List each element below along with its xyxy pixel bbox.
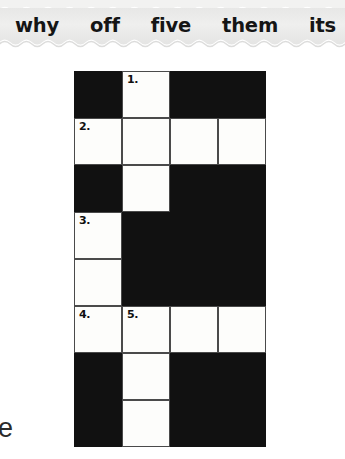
crossword-blocked-cell-3-2 <box>170 212 218 259</box>
word-bank: why off five them its <box>0 0 345 58</box>
crossword-blocked-cell-7-0 <box>74 400 122 447</box>
crossword-blocked-cell-2-3 <box>218 165 266 212</box>
crossword-cell-3-0[interactable]: 3. <box>74 212 122 259</box>
crossword-blocked-cell-7-2 <box>170 400 218 447</box>
crossword-blocked-cell-6-3 <box>218 353 266 400</box>
crossword-blocked-cell-6-2 <box>170 353 218 400</box>
crossword-clue-number: 4. <box>79 309 90 321</box>
word-bank-word-off[interactable]: off <box>90 16 120 36</box>
crossword-cell-6-1[interactable] <box>122 353 170 400</box>
crossword-cell-1-0[interactable]: 2. <box>74 118 122 165</box>
crossword-blocked-cell-0-2 <box>170 71 218 118</box>
crossword-cell-1-2[interactable] <box>170 118 218 165</box>
crossword-grid: 1.2.3.4.5. <box>74 71 266 447</box>
crossword-blocked-cell-3-1 <box>122 212 170 259</box>
crossword-cell-2-1[interactable] <box>122 165 170 212</box>
word-bank-word-five[interactable]: five <box>151 16 191 36</box>
crossword-cell-1-3[interactable] <box>218 118 266 165</box>
crossword-blocked-cell-4-3 <box>218 259 266 306</box>
crossword-blocked-cell-4-1 <box>122 259 170 306</box>
word-bank-word-them[interactable]: them <box>222 16 278 36</box>
crossword-blocked-cell-2-2 <box>170 165 218 212</box>
crossword-cell-1-1[interactable] <box>122 118 170 165</box>
crossword-cell-4-0[interactable] <box>74 259 122 306</box>
crossword-blocked-cell-4-2 <box>170 259 218 306</box>
crossword-cell-5-2[interactable] <box>170 306 218 353</box>
crossword-cell-5-3[interactable] <box>218 306 266 353</box>
clipped-edge-letter: e <box>0 415 13 442</box>
crossword-cell-7-1[interactable] <box>122 400 170 447</box>
crossword-blocked-cell-2-0 <box>74 165 122 212</box>
crossword-clue-number: 2. <box>79 121 90 133</box>
crossword-clue-number: 1. <box>127 74 138 86</box>
crossword-blocked-cell-0-3 <box>218 71 266 118</box>
word-bank-word-why[interactable]: why <box>15 16 59 36</box>
crossword-blocked-cell-7-3 <box>218 400 266 447</box>
word-bank-word-its[interactable]: its <box>309 16 336 36</box>
crossword-blocked-cell-6-0 <box>74 353 122 400</box>
crossword-clue-number: 3. <box>79 215 90 227</box>
crossword-cell-0-1[interactable]: 1. <box>122 71 170 118</box>
crossword-blocked-cell-3-3 <box>218 212 266 259</box>
crossword-blocked-cell-0-0 <box>74 71 122 118</box>
word-bank-word-list: why off five them its <box>0 11 345 41</box>
crossword-clue-number: 5. <box>127 309 138 321</box>
crossword-cell-5-0[interactable]: 4. <box>74 306 122 353</box>
crossword-cell-5-1[interactable]: 5. <box>122 306 170 353</box>
